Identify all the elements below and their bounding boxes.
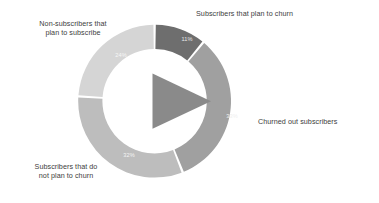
value-label-churned-out-subscribers: 33% (221, 113, 243, 119)
value-label-subscribers-not-plan-to-churn: 32% (118, 152, 140, 158)
play-triangle-icon (153, 74, 212, 129)
callout-non-subscribers-plan-to-subscribe: Non-subscribers that plan to subscribe (14, 19, 132, 38)
value-label-subscribers-plan-to-churn: 11% (176, 36, 198, 42)
callout-subscribers-plan-to-churn: Subscribers that plan to churn (196, 9, 368, 18)
callout-subscribers-not-plan-to-churn: Subscribers that do not plan to churn (10, 162, 122, 181)
donut-chart: Non-subscribers that plan to subscribe S… (0, 0, 379, 203)
value-label-non-subscribers-plan-to-subscribe: 24% (110, 52, 132, 58)
callout-churned-out-subscribers: Churned out subscribers (258, 117, 376, 126)
